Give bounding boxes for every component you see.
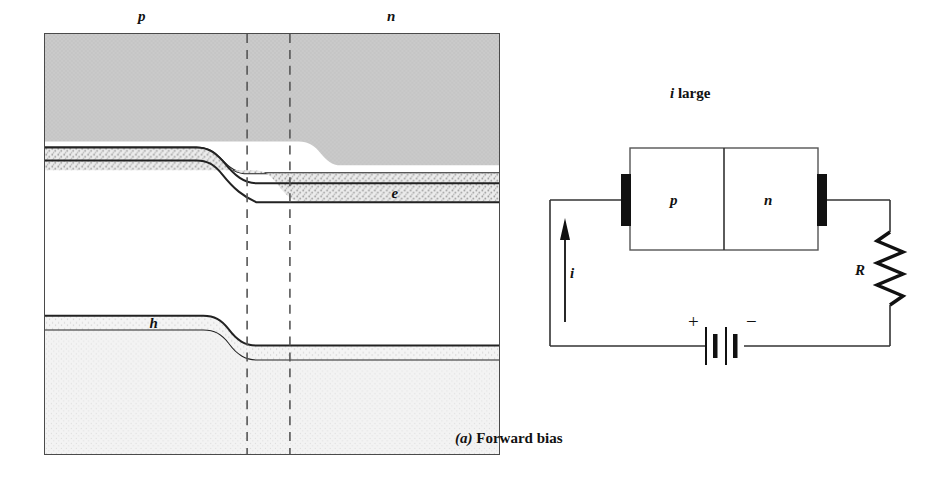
band-region-label-n: n: [387, 8, 395, 25]
band-diagram-svg: e h: [45, 34, 499, 454]
circuit-diagram: i p n R + −: [520, 60, 940, 390]
resistor-label: R: [854, 262, 865, 278]
electron-label: e: [391, 185, 398, 201]
upper-conduction-block: [45, 34, 499, 165]
circuit-diagram-svg: i p n R + −: [520, 60, 940, 390]
current-arrow-head: [560, 218, 570, 240]
electrode-right: [817, 174, 827, 226]
energy-band-diagram: e h: [44, 33, 500, 455]
current-label: i: [570, 265, 575, 281]
figure-caption: (a) Forward bias: [455, 430, 563, 447]
caption-text: Forward bias: [476, 430, 562, 446]
diode-label-p: p: [668, 192, 678, 208]
battery-negative-sign: −: [746, 311, 757, 332]
battery-positive-sign: +: [688, 311, 699, 332]
caption-index: (a): [455, 430, 473, 446]
resistor-zigzag: [877, 232, 903, 305]
electrode-left: [621, 174, 631, 226]
hole-label: h: [150, 315, 158, 331]
diode-label-n: n: [764, 192, 772, 208]
battery-plate-short-1: [713, 334, 718, 358]
figure-forward-bias: p n: [0, 0, 942, 486]
band-region-label-p: p: [138, 8, 146, 25]
battery-plate-short-2: [733, 334, 738, 358]
